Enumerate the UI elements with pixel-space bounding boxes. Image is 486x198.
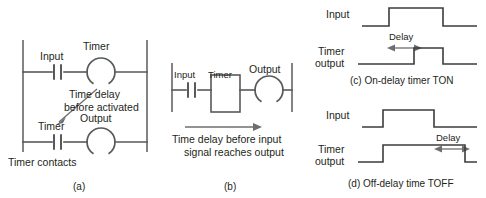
caption-d: (d) Off-delay time TOFF bbox=[348, 178, 454, 189]
panel-c: Input Delay Timer output (c) On-delay ti… bbox=[315, 8, 477, 86]
label-timer-output-line2-d: output bbox=[315, 155, 344, 167]
timer-coil-bottom-right-arc-a bbox=[109, 72, 116, 84]
timer-figure: Input Timer Time delay before activated … bbox=[0, 0, 486, 198]
annotation-line1-b: Time delay before input bbox=[172, 133, 281, 145]
output-coil-bottom-right-arc-a bbox=[109, 142, 116, 154]
delay-arrow-head-right-d bbox=[462, 146, 470, 153]
output-coil-top-arc-a bbox=[87, 128, 115, 142]
delay-arrow-head-left-c bbox=[387, 45, 395, 52]
caption-b: (b) bbox=[224, 181, 236, 192]
panel-a: Input Timer Time delay before activated … bbox=[8, 40, 147, 192]
timer-block-b bbox=[211, 75, 240, 112]
caption-c: (c) On-delay timer TON bbox=[350, 75, 454, 86]
figure-canvas: Input Timer Time delay before activated … bbox=[0, 0, 486, 198]
timer-coil-top-arc-a bbox=[87, 58, 115, 72]
input-waveform-c bbox=[362, 8, 477, 26]
label-input-b: Input bbox=[174, 69, 195, 80]
annotation-line2-b: signal reaches output bbox=[184, 146, 284, 158]
label-output-coil-a: Output bbox=[80, 112, 112, 124]
input-waveform-d bbox=[362, 110, 477, 127]
delay-label-c: Delay bbox=[389, 31, 414, 42]
timer-output-waveform-d bbox=[358, 145, 477, 162]
delay-arrow-head-left-d bbox=[434, 146, 442, 153]
output-coil-top-arc-b bbox=[255, 76, 283, 90]
panel-d: Input Delay Timer output (d) Off-delay t… bbox=[315, 109, 477, 189]
label-timer-coil-a: Timer bbox=[83, 40, 110, 52]
timer-output-waveform-c bbox=[358, 48, 477, 64]
label-timer-block-b: Timer bbox=[208, 69, 232, 80]
annotation-time-delay-line1-a: Time delay bbox=[69, 88, 121, 100]
timer-coil-bottom-left-arc-a bbox=[87, 72, 94, 84]
label-timer-contacts-a: Timer contacts bbox=[8, 156, 76, 168]
label-output-b: Output bbox=[249, 63, 281, 75]
panel-b: Input Timer Output Time delay before inp… bbox=[172, 63, 292, 192]
delay-label-d: Delay bbox=[436, 132, 461, 143]
time-delay-arrow-head-b bbox=[253, 123, 262, 131]
label-input-c: Input bbox=[326, 8, 349, 20]
label-input-d: Input bbox=[326, 109, 349, 121]
output-coil-bottom-left-arc-a bbox=[87, 142, 94, 154]
label-timer-output-line1-c: Timer bbox=[318, 45, 345, 57]
caption-a: (a) bbox=[73, 181, 85, 192]
output-coil-bottom-left-arc-b bbox=[255, 90, 262, 102]
label-timer-contact-a: Timer bbox=[38, 120, 65, 132]
label-input-a: Input bbox=[40, 50, 63, 62]
output-coil-bottom-right-arc-b bbox=[277, 90, 284, 102]
label-timer-output-line2-c: output bbox=[315, 57, 344, 69]
label-timer-output-line1-d: Timer bbox=[318, 143, 345, 155]
